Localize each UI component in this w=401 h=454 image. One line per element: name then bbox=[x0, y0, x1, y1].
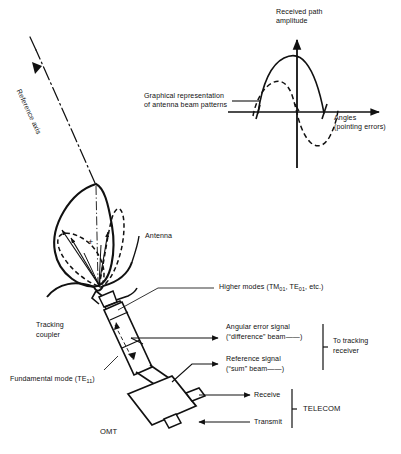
chart-ylabel-line2: amplitude bbox=[276, 17, 308, 26]
to-tracking-receiver-line1: To tracking bbox=[333, 337, 368, 346]
bracket-telecom bbox=[292, 389, 297, 428]
receive-label: Receive bbox=[254, 391, 280, 400]
higher-modes-label: Higher modes (TM01, TE01, etc.) bbox=[219, 283, 323, 292]
telecom-label: TELECOM bbox=[303, 404, 340, 413]
chart-ylabel-line1: Received path bbox=[276, 8, 323, 17]
angular-error-label-line2: (“difference” beam——) bbox=[226, 333, 302, 342]
diagram-vector-layer bbox=[0, 0, 401, 454]
transmit-label: Transmit bbox=[254, 418, 282, 427]
reference-axis-arrowhead bbox=[32, 62, 42, 74]
fundamental-mode-text-pre: Fundamental mode (TE bbox=[10, 375, 87, 383]
reference-signal-label-line1: Reference signal bbox=[226, 355, 281, 364]
chart-series-difference-beam bbox=[253, 81, 338, 146]
diagram-canvas: Reference axis Received path amplitude A… bbox=[0, 0, 401, 454]
sum-beam-lobe bbox=[54, 184, 113, 286]
reference-signal-label-line2: (“sum” beam——) bbox=[226, 365, 284, 374]
reference-axis-line bbox=[30, 37, 95, 183]
higher-modes-text-post: , etc.) bbox=[305, 283, 323, 291]
omt-label: OMT bbox=[100, 427, 117, 436]
chart-series-sum-beam bbox=[256, 56, 327, 119]
chart-xlabel-line2: (pointing errors) bbox=[334, 123, 386, 132]
leader-higher-modes bbox=[118, 288, 214, 310]
chart-caption-line2: of antenna beam patterns bbox=[144, 101, 227, 110]
to-tracking-receiver-line2: receiver bbox=[333, 347, 359, 356]
fundamental-mode-label: Fundamental mode (TE11) bbox=[10, 375, 95, 384]
tracking-coupler-label-line1: Tracking bbox=[36, 321, 64, 330]
bracket-to-tracking-receiver bbox=[323, 324, 328, 370]
lobe-plus-sign: + bbox=[88, 238, 93, 247]
angular-error-signal-arrow bbox=[131, 338, 218, 344]
chart-caption-line1: Graphical representation bbox=[144, 92, 224, 101]
lobe-center-axis bbox=[96, 186, 98, 284]
fundamental-mode-text-post: ) bbox=[92, 375, 94, 383]
angular-error-label-line1: Angular error signal bbox=[226, 323, 290, 332]
omt-box bbox=[128, 376, 205, 428]
higher-modes-text-pre: Higher modes (TM bbox=[219, 283, 279, 291]
reference-signal-arrow bbox=[172, 364, 218, 382]
leader-antenna bbox=[132, 236, 139, 262]
antenna-label: Antenna bbox=[145, 232, 172, 241]
chart-xlabel-line1: Angles bbox=[334, 114, 356, 123]
tracking-coupler-label-line2: coupler bbox=[36, 331, 60, 340]
higher-modes-text-mid: , TE bbox=[286, 283, 299, 291]
leader-fundamental-mode bbox=[104, 356, 118, 370]
